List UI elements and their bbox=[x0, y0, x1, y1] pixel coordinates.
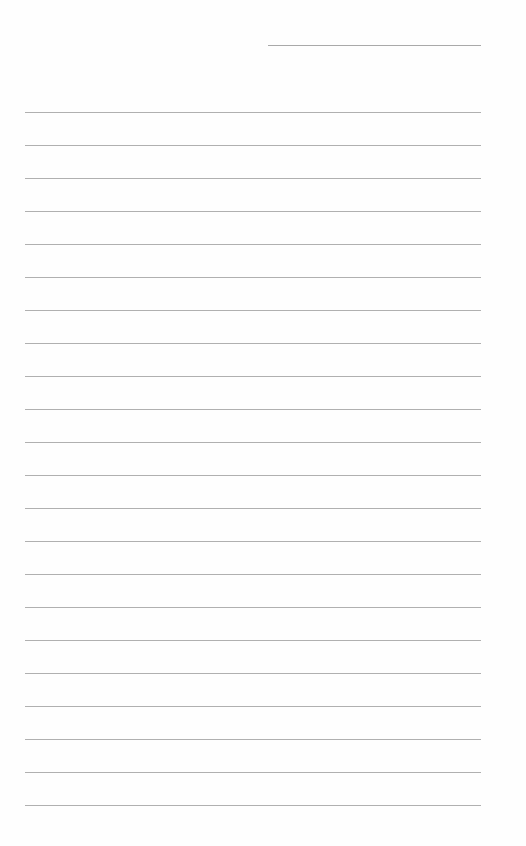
ruled-line bbox=[25, 145, 481, 146]
ruled-line bbox=[25, 574, 481, 575]
ruled-line bbox=[25, 442, 481, 443]
ruled-line bbox=[25, 508, 481, 509]
ruled-line bbox=[25, 277, 481, 278]
ruled-line bbox=[25, 409, 481, 410]
ruled-line bbox=[25, 772, 481, 773]
ruled-line bbox=[25, 376, 481, 377]
ruled-line bbox=[25, 211, 481, 212]
ruled-line bbox=[25, 805, 481, 806]
ruled-line bbox=[25, 607, 481, 608]
ruled-line bbox=[25, 739, 481, 740]
ruled-line bbox=[25, 244, 481, 245]
lined-paper-page bbox=[0, 0, 526, 846]
ruled-line bbox=[25, 640, 481, 641]
ruled-line bbox=[25, 343, 481, 344]
ruled-line bbox=[25, 112, 481, 113]
ruled-line bbox=[25, 475, 481, 476]
ruled-line bbox=[25, 541, 481, 542]
header-blank-line bbox=[268, 45, 481, 46]
ruled-line bbox=[25, 178, 481, 179]
ruled-line bbox=[25, 706, 481, 707]
ruled-line bbox=[25, 310, 481, 311]
ruled-line bbox=[25, 673, 481, 674]
